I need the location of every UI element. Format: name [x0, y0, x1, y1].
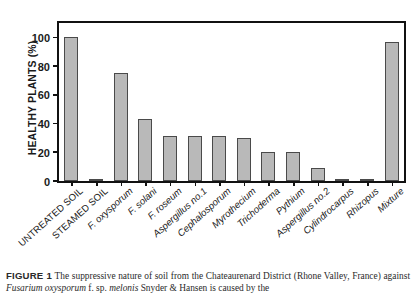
- bar-slot: [158, 23, 183, 181]
- bar[interactable]: [188, 136, 202, 181]
- bar[interactable]: [261, 152, 275, 181]
- bar[interactable]: [64, 37, 78, 181]
- caption-line-2-pre: France) against: [352, 271, 410, 281]
- bar-slot: [256, 23, 281, 181]
- caption-line-1: The suppressive nature of soil from the …: [55, 271, 350, 281]
- caption-line-2-post: Snyder & Hansen is caused by the: [138, 283, 269, 293]
- bar-slot: [355, 23, 380, 181]
- figure-number: FIGURE 1: [6, 270, 52, 281]
- bar[interactable]: [138, 119, 152, 181]
- y-axis-tick-label: 60: [38, 90, 53, 101]
- y-axis-tick-label: 20: [38, 147, 53, 158]
- bar-slot: [182, 23, 207, 181]
- plot-area: 020406080100: [59, 23, 404, 181]
- bar-slot: [133, 23, 158, 181]
- bar[interactable]: [237, 138, 251, 181]
- bar-slot: [232, 23, 257, 181]
- bar-slot: [305, 23, 330, 181]
- bar-slot: [330, 23, 355, 181]
- bar-slot: [379, 23, 404, 181]
- bar[interactable]: [385, 42, 399, 181]
- bar-slot: [108, 23, 133, 181]
- bar[interactable]: [163, 136, 177, 181]
- bar-slot: [207, 23, 232, 181]
- y-axis-tick-label: 40: [38, 119, 53, 130]
- x-axis-label: Mixture: [375, 186, 405, 214]
- bar-slot: [84, 23, 109, 181]
- bar-series: [59, 23, 404, 181]
- figure-caption: FIGURE 1 The suppressive nature of soil …: [6, 270, 410, 294]
- y-axis-tick-label: 80: [38, 61, 53, 72]
- y-axis-tick-label: 100: [32, 32, 53, 43]
- bar[interactable]: [212, 136, 226, 181]
- bar[interactable]: [311, 168, 325, 181]
- bar[interactable]: [286, 152, 300, 181]
- bar-slot: [281, 23, 306, 181]
- bar-slot: [59, 23, 84, 181]
- caption-line-2-mid: f. sp.: [86, 283, 109, 293]
- caption-species-2: melonis: [109, 283, 138, 293]
- bar[interactable]: [114, 73, 128, 181]
- x-axis-labels: UNTREATED SOILSTEAMED SOILF. oxysporumF.…: [0, 186, 414, 264]
- caption-species-1: Fusarium oxysporum: [6, 283, 86, 293]
- figure-container: HEALTHY PLANTS (%) 020406080100 UNTREATE…: [0, 0, 414, 303]
